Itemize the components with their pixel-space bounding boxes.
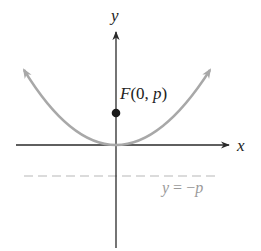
- x-axis-label: x: [236, 136, 245, 155]
- focus-point: [112, 109, 121, 118]
- y-axis-label: y: [109, 6, 119, 25]
- directrix-label-p: p: [194, 179, 203, 197]
- parabola-diagram: y x F(0, p) y = −p: [0, 0, 261, 251]
- parabola-left-branch: [24, 70, 116, 145]
- directrix-label: y = −p: [160, 179, 203, 197]
- focus-label-open: (0,: [130, 84, 153, 103]
- directrix-label-eq: = −: [169, 179, 195, 196]
- focus-label-close: ): [162, 84, 168, 103]
- parabola-right-branch: [116, 70, 210, 145]
- focus-label-p: p: [152, 84, 162, 103]
- focus-label: F(0, p): [119, 84, 167, 103]
- focus-label-letter: F: [119, 84, 131, 103]
